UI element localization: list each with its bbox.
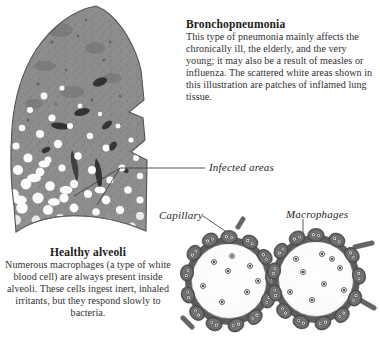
bronchopneumonia-body: This type of pneumonia mainly affects th… — [186, 31, 374, 102]
bronchopneumonia-heading: Bronchopneumonia — [186, 18, 374, 30]
healthy-alveoli-text-block: Healthy alveoli Numerous macrophages (a … — [2, 246, 174, 319]
illustration-page: Bronchopneumonia This type of pneumonia … — [0, 0, 380, 343]
infected-areas-label: Infected areas — [209, 161, 274, 173]
macrophages-label: Macrophages — [286, 208, 348, 220]
alveolus-right — [266, 228, 367, 332]
healthy-alveoli-heading: Healthy alveoli — [2, 246, 174, 258]
capillary-label: Capillary — [159, 209, 203, 221]
alveolus-left — [179, 230, 280, 334]
bronchopneumonia-text-block: Bronchopneumonia This type of pneumonia … — [186, 18, 374, 102]
healthy-alveoli-body: Numerous macrophages (a type of white bl… — [2, 259, 174, 319]
